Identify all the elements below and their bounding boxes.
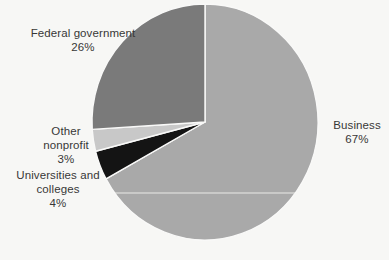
- pie-chart-canvas: Federal government 26% Other nonprofit 3…: [0, 0, 389, 260]
- slice-label-universities-and-colleges: Universities and colleges 4%: [0, 168, 118, 210]
- slice-label-pct: 3%: [21, 152, 111, 166]
- slice-label-pct: 67%: [317, 132, 389, 146]
- slice-label-pct: 4%: [0, 196, 118, 210]
- slice-label-text: Other: [21, 124, 111, 138]
- slice-label-business: Business 67%: [317, 118, 389, 146]
- slice-label-text: colleges: [0, 182, 118, 196]
- slice-label-text: Federal government: [18, 26, 148, 40]
- slice-label-other-nonprofit: Other nonprofit 3%: [21, 124, 111, 166]
- slice-label-federal-government: Federal government 26%: [18, 26, 148, 54]
- slice-label-text: Business: [317, 118, 389, 132]
- slice-label-pct: 26%: [18, 40, 148, 54]
- slice-label-text: nonprofit: [21, 138, 111, 152]
- slice-label-text: Universities and: [0, 168, 118, 182]
- pie-slice-federal-government: [92, 4, 205, 129]
